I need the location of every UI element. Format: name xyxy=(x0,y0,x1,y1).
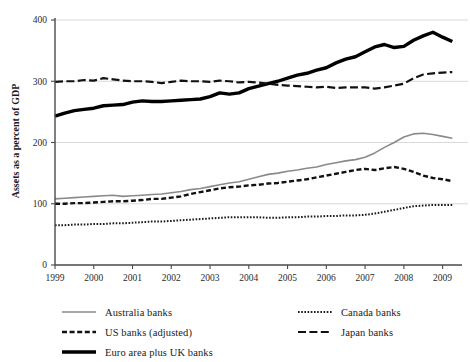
y-tick-label: 300 xyxy=(33,77,48,87)
legend-item[interactable]: Euro area plus UK banks xyxy=(62,342,213,362)
series-line-euro-area-plus-uk-banks xyxy=(55,32,452,116)
legend-item-label: Japan banks xyxy=(341,327,393,338)
legend-item-label: US banks (adjusted) xyxy=(105,327,192,338)
legend-swatch-icon xyxy=(62,326,96,338)
series-line-canada-banks xyxy=(55,205,452,225)
y-tick-label: 0 xyxy=(42,260,47,270)
y-axis-title: Assets as a percent of GDP xyxy=(10,84,21,199)
legend-item-label: Canada banks xyxy=(341,307,401,318)
legend-item-label: Euro area plus UK banks xyxy=(105,347,213,358)
axis-lines xyxy=(55,18,462,265)
y-tick-labels: 0100200300400 xyxy=(33,15,48,270)
x-tick-label: 2000 xyxy=(84,273,103,283)
x-tick-label: 2006 xyxy=(317,273,336,283)
legend-column-left: Australia banksUS banks (adjusted)Euro a… xyxy=(62,302,213,362)
series-line-australia-banks xyxy=(55,133,452,199)
legend-swatch-icon xyxy=(62,306,96,318)
x-tick-label: 2002 xyxy=(162,273,181,283)
legend-item[interactable]: Canada banks xyxy=(298,302,401,322)
legend-item[interactable]: US banks (adjusted) xyxy=(62,322,213,342)
x-tick-label: 2007 xyxy=(356,273,375,283)
y-tick-label: 200 xyxy=(33,138,48,148)
chart-legend: Australia banksUS banks (adjusted)Euro a… xyxy=(0,300,470,362)
legend-column-right: Canada banksJapan banks xyxy=(298,302,401,342)
legend-item[interactable]: Australia banks xyxy=(62,302,213,322)
x-tick-labels: 1999200020012002200320042005200620072008… xyxy=(46,273,453,283)
x-tick-label: 2009 xyxy=(433,273,452,283)
data-series-group xyxy=(55,32,452,225)
x-tick-label: 2003 xyxy=(201,273,220,283)
legend-swatch-icon xyxy=(298,326,332,338)
line-chart-plot: 0100200300400 19992000200120022003200420… xyxy=(0,0,470,300)
x-tick-label: 2008 xyxy=(394,273,413,283)
legend-swatch-icon xyxy=(62,346,96,358)
legend-item[interactable]: Japan banks xyxy=(298,322,401,342)
legend-swatch-icon xyxy=(298,306,332,318)
x-tick-label: 2004 xyxy=(239,273,258,283)
x-tick-label: 1999 xyxy=(46,273,65,283)
y-tick-label: 400 xyxy=(33,15,48,25)
x-tick-label: 2005 xyxy=(278,273,297,283)
x-tick-label: 2001 xyxy=(123,273,142,283)
axis-ticks xyxy=(51,20,443,269)
chart-figure: 0100200300400 19992000200120022003200420… xyxy=(0,0,470,362)
series-line-us-banks-adjusted xyxy=(55,167,452,204)
legend-item-label: Australia banks xyxy=(105,307,172,318)
y-tick-label: 100 xyxy=(33,199,48,209)
